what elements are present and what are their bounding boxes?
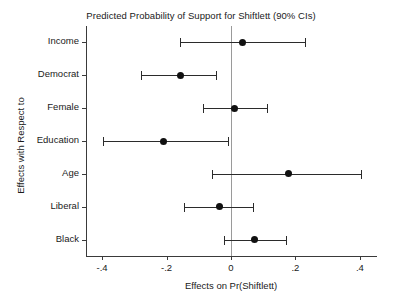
x-tick — [167, 256, 168, 260]
ci-upper-cap — [216, 71, 217, 80]
y-tick — [82, 141, 86, 142]
estimate-point — [216, 203, 223, 210]
x-tick — [295, 256, 296, 260]
ci-upper-cap — [286, 236, 287, 245]
ci-lower-cap — [103, 137, 104, 146]
ci-upper-cap — [267, 104, 268, 113]
y-tick-label: Education — [37, 134, 79, 145]
y-tick-label: Income — [48, 35, 79, 46]
ci-upper-cap — [305, 38, 306, 47]
ci-lower-cap — [180, 38, 181, 47]
x-tick-label: .2 — [291, 262, 299, 273]
x-axis-title: Effects on Pr(Shiftlett) — [86, 280, 376, 291]
y-axis-title: Effects with Respect to — [15, 46, 26, 246]
x-tick-label: 0 — [228, 262, 233, 273]
coefficient-plot-figure: Predicted Probability of Support for Shi… — [0, 0, 402, 304]
y-axis-line — [86, 26, 87, 256]
x-tick — [231, 256, 232, 260]
x-tick-label: -.4 — [97, 262, 108, 273]
estimate-point — [231, 105, 238, 112]
y-tick — [82, 207, 86, 208]
estimate-point — [177, 72, 184, 79]
y-tick-label: Democrat — [38, 68, 79, 79]
ci-lower-cap — [224, 236, 225, 245]
y-tick-label: Black — [56, 233, 79, 244]
x-tick-label: -.2 — [161, 262, 172, 273]
y-tick-label: Liberal — [50, 200, 79, 211]
x-tick — [360, 256, 361, 260]
plot-area: IncomeDemocratFemaleEducationAgeLiberalB… — [86, 26, 376, 256]
y-tick — [82, 174, 86, 175]
x-tick-label: .4 — [356, 262, 364, 273]
ci-lower-cap — [203, 104, 204, 113]
y-tick — [82, 240, 86, 241]
ci-upper-cap — [361, 170, 362, 179]
ci-lower-cap — [141, 71, 142, 80]
y-tick — [82, 75, 86, 76]
y-tick — [82, 108, 86, 109]
ci-lower-cap — [212, 170, 213, 179]
estimate-point — [239, 39, 246, 46]
ci-upper-cap — [228, 137, 229, 146]
y-tick-label: Female — [47, 101, 79, 112]
ci-lower-cap — [184, 203, 185, 212]
estimate-point — [285, 170, 292, 177]
y-tick-label: Age — [62, 167, 79, 178]
chart-title: Predicted Probability of Support for Shi… — [0, 10, 402, 21]
estimate-point — [160, 138, 167, 145]
x-tick — [102, 256, 103, 260]
ci-upper-cap — [253, 203, 254, 212]
estimate-point — [251, 236, 258, 243]
zero-reference-line — [231, 26, 232, 256]
y-tick — [82, 42, 86, 43]
